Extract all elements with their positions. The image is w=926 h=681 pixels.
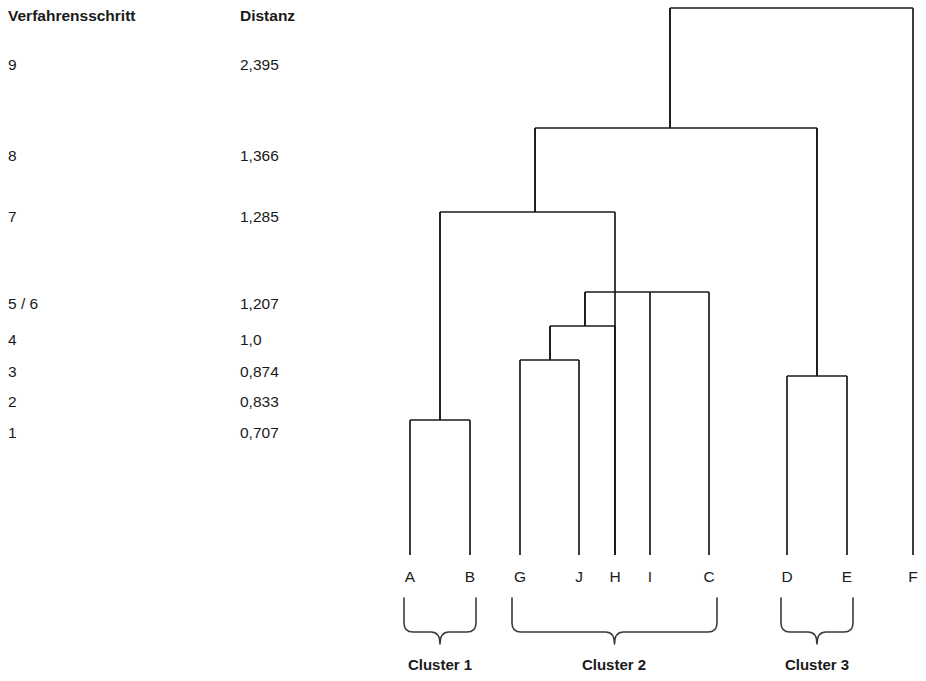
dendrogram-tree-lines: [410, 8, 913, 555]
cluster-brace-group: [404, 598, 853, 644]
leaf-label: G: [514, 568, 526, 585]
cluster-label-group: Cluster 1Cluster 2Cluster 3: [408, 656, 849, 673]
leaf-label: F: [908, 568, 917, 585]
cluster-brace: [404, 598, 476, 644]
leaf-label: H: [609, 568, 620, 585]
leaf-label: C: [703, 568, 714, 585]
cluster-label: Cluster 2: [582, 656, 646, 673]
cluster-brace: [781, 598, 853, 644]
cluster-label: Cluster 3: [785, 656, 849, 673]
leaf-label: D: [781, 568, 792, 585]
dendrogram-svg: ABGJHICDEF Cluster 1Cluster 2Cluster 3: [0, 0, 926, 681]
dendrogram-plot: ABGJHICDEF Cluster 1Cluster 2Cluster 3: [0, 0, 926, 681]
leaf-label: E: [842, 568, 852, 585]
leaf-label: J: [575, 568, 583, 585]
leaf-label: A: [405, 568, 416, 585]
leaf-label: B: [465, 568, 475, 585]
cluster-brace: [512, 598, 717, 644]
leaf-label: I: [648, 568, 652, 585]
cluster-label: Cluster 1: [408, 656, 472, 673]
dendrogram-figure: Verfahrensschritt Distanz 92,39581,36671…: [0, 0, 926, 681]
leaf-label-group: ABGJHICDEF: [405, 568, 918, 585]
